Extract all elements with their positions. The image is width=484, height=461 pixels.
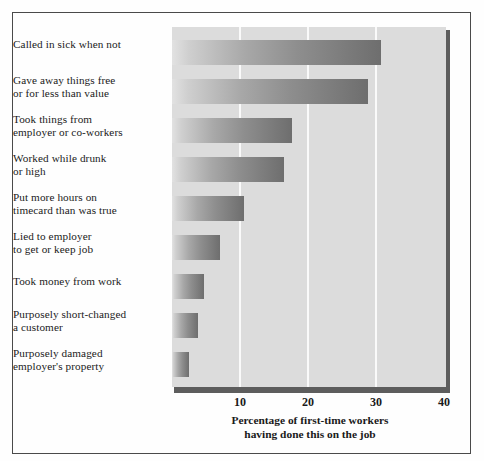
category-label: Lied to employer to get or keep job [13, 230, 166, 256]
category-label: Called in sick when not [13, 38, 166, 51]
bar-called-in-sick [172, 40, 381, 65]
category-label: Put more hours on timecard than was true [13, 191, 166, 217]
category-label: Purposely damaged employer's property [13, 347, 166, 373]
x-tick-label: 10 [234, 395, 246, 410]
bar-lied-to-employer [172, 235, 220, 260]
category-label: Took things from employer or co-workers [13, 113, 166, 139]
plot-area [172, 27, 446, 387]
bar-took-money-from-work [172, 274, 204, 299]
plot-shadow-bottom [174, 387, 450, 393]
bar-put-more-hours-on-timecard [172, 196, 244, 221]
bar-purposely-short-changed [172, 313, 198, 338]
gridline-30 [375, 27, 377, 387]
x-axis-tick-labels: 10 20 30 40 [172, 395, 452, 413]
bar-gave-away-things-free [172, 79, 368, 104]
chart-figure: Called in sick when not Gave away things… [0, 0, 484, 461]
category-label: Took money from work [13, 275, 166, 288]
bar-took-things-from-employer [172, 118, 292, 143]
bar-worked-while-drunk [172, 157, 284, 182]
x-tick-label: 40 [438, 395, 450, 410]
category-label: Worked while drunk or high [13, 152, 166, 178]
x-tick-label: 30 [370, 395, 382, 410]
x-axis-title: Percentage of first-time workers having … [172, 414, 448, 441]
x-tick-label: 20 [302, 395, 314, 410]
category-label: Gave away things free or for less than v… [13, 74, 166, 100]
category-label-column: Called in sick when not Gave away things… [13, 28, 170, 385]
category-label: Purposely short-changed a customer [13, 308, 166, 334]
bar-purposely-damaged-property [172, 352, 189, 377]
